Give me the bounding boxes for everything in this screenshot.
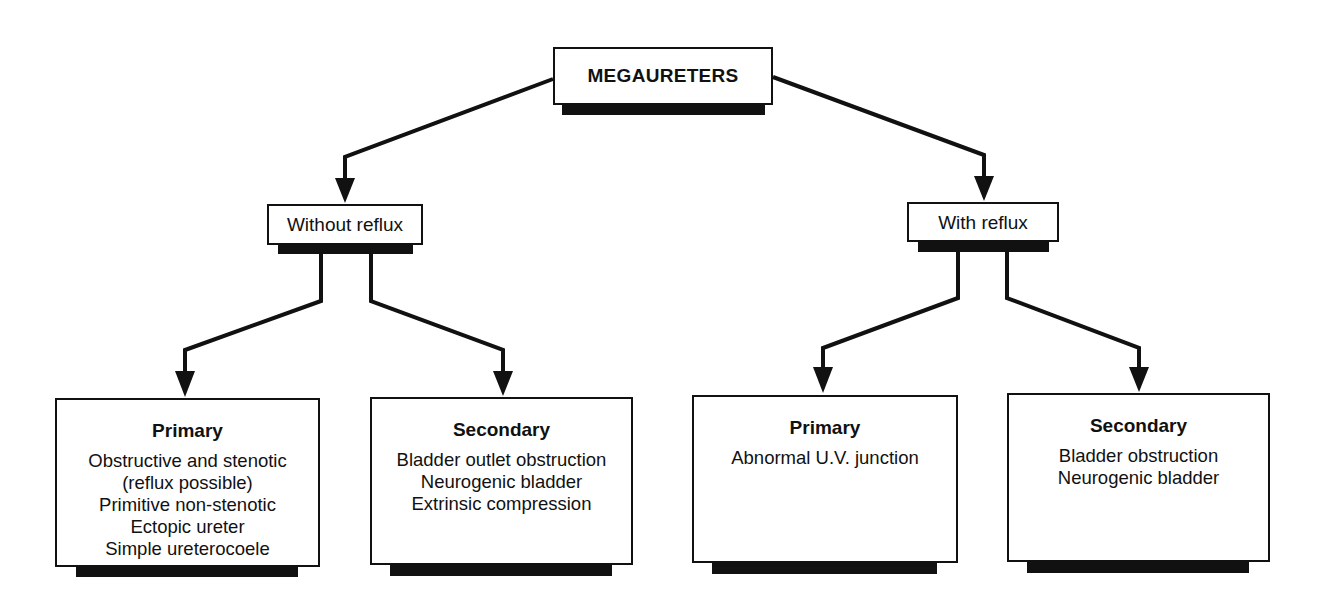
leaf-with-reflux-secondary: Secondary Bladder obstruction Neurogenic… (1007, 393, 1270, 562)
without-reflux-label: Without reflux (269, 206, 421, 243)
arrowhead-icon (813, 367, 833, 393)
edge-root-without-reflux (345, 79, 553, 180)
leaf-title: Secondary (372, 419, 631, 441)
leaf-item: Primitive non-stenotic (57, 494, 318, 516)
leaf-item: Bladder obstruction (1009, 445, 1268, 467)
edge-without-reflux-primary (185, 254, 321, 373)
edge-with-reflux-primary (823, 252, 958, 369)
edge-root-with-reflux (773, 77, 984, 178)
leaf-item: Neurogenic bladder (372, 471, 631, 493)
leaf-title: Primary (694, 417, 956, 439)
with-reflux-node: With reflux (907, 202, 1059, 242)
leaf-item: Bladder outlet obstruction (372, 449, 631, 471)
leaf-item: Obstructive and stenotic (57, 450, 318, 472)
without-reflux-node: Without reflux (267, 204, 423, 245)
leaf-without-secondary-shadow (390, 564, 612, 576)
leaf-without-reflux-secondary: Secondary Bladder outlet obstruction Neu… (370, 397, 633, 565)
leaf-without-primary-shadow (76, 566, 298, 577)
leaf-title: Secondary (1009, 415, 1268, 437)
leaf-with-primary-shadow (712, 562, 937, 574)
leaf-item: (reflux possible) (57, 472, 318, 494)
arrowhead-icon (493, 371, 513, 396)
arrowhead-icon (1129, 367, 1149, 392)
arrowhead-icon (175, 371, 195, 397)
leaf-item: Ectopic ureter (57, 516, 318, 538)
leaf-without-reflux-primary: Primary Obstructive and stenotic (reflux… (55, 398, 320, 567)
with-reflux-label: With reflux (909, 204, 1057, 241)
edge-without-reflux-secondary (371, 254, 503, 373)
arrowhead-icon (974, 176, 994, 201)
leaf-item: Neurogenic bladder (1009, 467, 1268, 489)
root-node: MEGAURETERS (553, 47, 773, 105)
leaf-with-reflux-primary: Primary Abnormal U.V. junction (692, 395, 958, 563)
root-node-shadow (562, 104, 765, 115)
leaf-with-secondary-shadow (1027, 561, 1249, 573)
leaf-item: Simple ureterocoele (57, 538, 318, 560)
edge-with-reflux-secondary (1007, 252, 1139, 369)
leaf-item: Extrinsic compression (372, 493, 631, 515)
arrowhead-icon (335, 178, 355, 203)
leaf-item: Abnormal U.V. junction (694, 447, 956, 469)
root-label: MEGAURETERS (555, 49, 771, 103)
leaf-title: Primary (57, 420, 318, 442)
